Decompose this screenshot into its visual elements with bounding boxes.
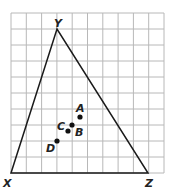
- vertex-label-z: Z: [144, 177, 154, 190]
- point-label-b: B: [75, 126, 83, 139]
- point-label-d: D: [46, 142, 55, 155]
- grid: [11, 13, 164, 173]
- point-label-a: A: [75, 102, 85, 115]
- point-b: [69, 122, 74, 127]
- point-c: [65, 128, 70, 133]
- triangle-xyz: [11, 29, 148, 173]
- points: ABCD: [46, 102, 85, 155]
- point-a: [77, 114, 82, 119]
- point-d: [54, 138, 59, 143]
- vertex-label-y: Y: [54, 17, 63, 30]
- triangle-diagram: XYZ ABCD: [0, 0, 172, 195]
- point-label-c: C: [57, 120, 65, 133]
- vertex-label-x: X: [2, 177, 12, 190]
